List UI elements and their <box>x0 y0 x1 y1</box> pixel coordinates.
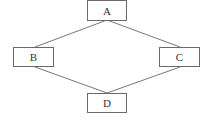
edge-a-c <box>107 20 180 47</box>
node-b-label: B <box>30 51 37 63</box>
node-b: B <box>13 47 54 67</box>
edge-b-d <box>35 67 107 93</box>
node-c: C <box>159 47 200 67</box>
node-d-label: D <box>103 97 111 109</box>
node-c-label: C <box>176 51 183 63</box>
node-a: A <box>87 0 127 21</box>
node-a-label: A <box>103 5 111 17</box>
node-d: D <box>87 93 127 113</box>
edge-a-b <box>35 20 107 47</box>
edge-c-d <box>107 67 180 93</box>
